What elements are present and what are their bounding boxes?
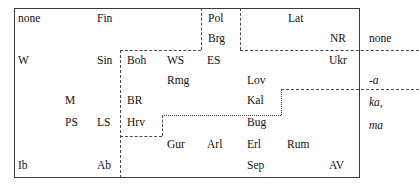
cell-label: none (369, 32, 391, 44)
ukr-top-divider (240, 50, 419, 51)
cell-label: Erl (247, 138, 261, 150)
cell-label: Boh (127, 54, 146, 66)
cell-label: Ab (97, 159, 111, 171)
outer-boundary (14, 8, 360, 178)
cell-label: Fin (97, 12, 112, 24)
cell-label: WS (167, 54, 184, 66)
cell-label: AV (329, 159, 344, 171)
cell-label: Brg (208, 32, 225, 44)
west-slavic-left-divider (120, 50, 121, 178)
hrv-right-divider (162, 115, 163, 136)
cell-label: Sep (247, 159, 264, 171)
cell-label: Arl (207, 138, 222, 150)
cell-label: Rmg (167, 74, 189, 86)
hrv-bottom-divider (120, 136, 162, 137)
cell-label: BR (127, 94, 142, 106)
cell-label: Lov (247, 74, 266, 86)
cell-label: LS (97, 116, 110, 128)
cell-label: Kal (247, 94, 264, 106)
kal-top-divider (281, 89, 419, 90)
cell-label: none (18, 12, 40, 24)
cell-label: Sin (97, 54, 112, 66)
cell-label: Bug (247, 116, 266, 128)
cell-label: M (65, 94, 75, 106)
cell-label: NR (330, 32, 346, 44)
cell-label: Ukr (329, 54, 347, 66)
cell-label: Lat (288, 12, 303, 24)
pol-left-divider (201, 8, 202, 50)
cell-label: Gur (167, 138, 185, 150)
boh-top-divider (120, 50, 201, 51)
cell-label: Pol (208, 12, 223, 24)
cell-label: Rum (287, 138, 309, 150)
cell-label: Ib (18, 159, 28, 171)
lat-left-divider (240, 8, 241, 50)
cell-label: PS (65, 116, 78, 128)
cell-label: ma (369, 119, 383, 131)
cell-label: ES (207, 54, 220, 66)
cell-label: ka, (369, 96, 383, 108)
cell-label: W (18, 54, 29, 66)
kal-left-divider (281, 89, 282, 115)
dialect-grid-figure: noneFinPolLatBrgNRnoneWSinBohWSESUkrRmgL… (0, 0, 419, 192)
cell-label: Hrv (127, 116, 145, 128)
cell-label: -a (369, 74, 379, 86)
